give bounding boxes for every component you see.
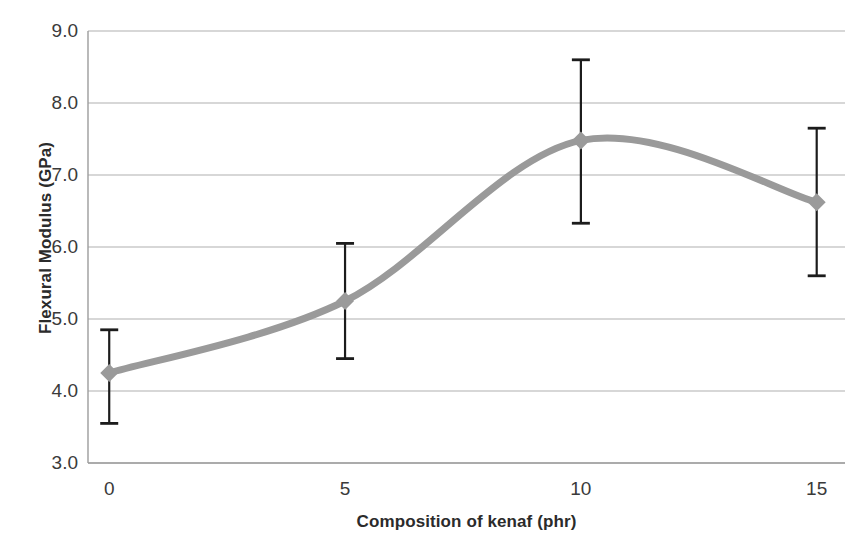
- x-axis-tick-label: 0: [79, 478, 139, 500]
- x-axis-tick-label: 15: [787, 478, 847, 500]
- plot-area: [0, 0, 855, 554]
- data-point-marker: [572, 131, 590, 149]
- flexural-modulus-chart: 9.08.07.06.05.04.03.0 Flexural Modulus (…: [0, 0, 855, 554]
- x-axis-tick-label: 10: [551, 478, 611, 500]
- data-point-marker: [100, 364, 118, 382]
- x-axis-tick-label: 5: [315, 478, 375, 500]
- data-point-marker: [808, 193, 826, 211]
- data-line: [109, 138, 816, 373]
